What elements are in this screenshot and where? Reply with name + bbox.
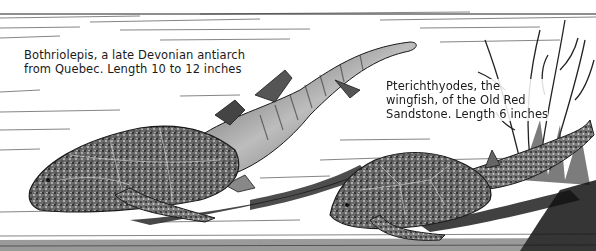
devonian-fish-illustration: Bothriolepis, a late Devonian antiarch f… xyxy=(0,0,596,251)
pterichthyodes-eye xyxy=(345,203,349,207)
bothriolepis-caption: Bothriolepis, a late Devonian antiarch f… xyxy=(24,48,245,76)
caption-line: Bothriolepis, a late Devonian antiarch xyxy=(24,48,245,62)
caption-line: Sandstone. Length 6 inches xyxy=(386,107,548,121)
pterichthyodes-caption: Pterichthyodes, the wingfish, of the Old… xyxy=(386,79,548,121)
top-shading xyxy=(0,0,596,15)
bothriolepis-eye xyxy=(46,178,50,182)
caption-line: wingfish, of the Old Red xyxy=(386,93,548,107)
caption-line: Pterichthyodes, the xyxy=(386,79,548,93)
caption-line: from Quebec. Length 10 to 12 inches xyxy=(24,62,245,76)
illustration-canvas xyxy=(0,0,596,251)
